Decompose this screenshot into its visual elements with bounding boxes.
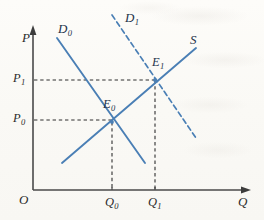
tick-label-p1-subscript: 1 [21,77,25,87]
equilibrium-initial-dot [110,120,114,124]
tick-label-q0-subscript: 0 [114,201,118,211]
supply-curve-line [62,48,196,163]
demand-curve-shifted-line [112,15,196,138]
tick-label-p0-base: P [13,111,21,125]
quantity-axis-arrowhead [241,186,251,193]
curve-label-s-base: S [190,32,197,47]
figure-canvas: P Q O P1 P0 Q0 Q1 D0 D1 S E0 E1 [0,0,264,220]
equilibrium-label-e1-base: E [152,55,160,69]
tick-label-p1-base: P [13,71,21,85]
tick-label-q1: Q1 [148,196,161,209]
equilibrium-label-e0-base: E [103,97,111,111]
curves-group [57,15,196,163]
curve-label-d0-subscript: 0 [68,28,72,38]
equilibrium-label-e1-subscript: 1 [160,61,164,71]
quantity-axis-label: Q [238,195,247,208]
tick-label-p0-subscript: 0 [21,117,25,127]
tick-label-q1-base: Q [148,195,157,209]
demand-curve-initial-line [57,38,145,163]
axes-group [30,25,251,194]
origin-label: O [19,193,28,206]
curve-label-d0-base: D [58,21,67,36]
equilibrium-label-shifted: E1 [152,56,164,69]
equilibrium-label-e0-subscript: 0 [111,103,115,113]
tick-label-p1: P1 [13,72,25,85]
curve-label-supply: S [190,33,197,46]
equilibrium-shifted-dot [153,78,157,82]
price-axis-arrowhead [30,25,37,35]
curve-label-d1-base: D [125,10,134,25]
diagram-svg [0,0,264,220]
tick-label-p0: P0 [13,112,25,125]
tick-label-q1-subscript: 1 [157,201,161,211]
curve-label-demand-initial: D0 [58,22,72,35]
curve-label-demand-shifted: D1 [125,11,139,24]
equilibrium-label-initial: E0 [103,98,115,111]
tick-label-q0-base: Q [105,195,114,209]
curve-label-d1-subscript: 1 [135,17,139,27]
tick-label-q0: Q0 [105,196,118,209]
price-axis-label: P [22,31,30,44]
